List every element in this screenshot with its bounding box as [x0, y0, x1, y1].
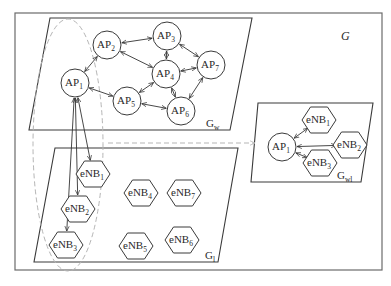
enb-node-enb5: eNB5	[119, 233, 153, 259]
edge-ap2-ap3	[122, 38, 152, 43]
ap-node-ap5: AP5	[113, 87, 141, 115]
edge-ap4-ap5	[139, 83, 153, 93]
edge-ap6-ap7	[189, 78, 203, 99]
edge-ap1wl-enb2wl	[297, 145, 336, 146]
edge-ap1wl-enb3wl	[296, 153, 307, 158]
enb-node-enb7: eNB7	[167, 180, 201, 206]
edge-ap1-ap5	[89, 88, 113, 96]
edge-ap1-enb1	[78, 98, 90, 161]
enb-node-enb6: eNB6	[165, 227, 199, 253]
edge-ap1-enb2	[75, 98, 77, 195]
plane-label-gl: Gl	[205, 249, 215, 264]
edge-ap4-ap6	[172, 88, 176, 97]
plane-label-gwl: Gwl	[337, 169, 352, 184]
enb-node-enb3wl: eNB3	[303, 150, 337, 176]
edge-ap1-ap2	[85, 56, 98, 71]
enb-node-enb2: eNB2	[61, 196, 95, 222]
ap-node-ap6: AP6	[167, 97, 195, 125]
enb-node-enb1: eNB1	[76, 161, 110, 187]
edge-ap5-ap6	[142, 104, 167, 109]
enb-node-enb4: eNB4	[124, 180, 158, 206]
ap-node-ap7: AP7	[197, 51, 225, 79]
ap-node-ap1wl: AP1	[268, 133, 296, 161]
ap-node-ap1: AP1	[61, 69, 89, 97]
ap-node-ap2: AP2	[93, 31, 121, 59]
edge-ap4-ap7	[181, 68, 197, 71]
edge-ap1wl-enb1wl	[294, 128, 308, 138]
edge-ap2-ap4	[120, 52, 152, 68]
outer-frame	[15, 13, 382, 270]
ap-node-ap4: AP4	[152, 60, 180, 88]
global-graph-label: G	[341, 29, 350, 43]
plane-label-gw: Gw	[206, 117, 220, 132]
enb-node-enb3: eNB3	[49, 232, 83, 258]
network-graph-diagram: GwGlGwl AP1AP2AP3AP4AP5AP6AP7AP1eNB1eNB2…	[0, 0, 391, 286]
ap-node-ap3: AP3	[153, 22, 181, 50]
enb-node-enb2wl: eNB2	[333, 132, 367, 158]
edge-ap3-ap7	[180, 44, 199, 56]
